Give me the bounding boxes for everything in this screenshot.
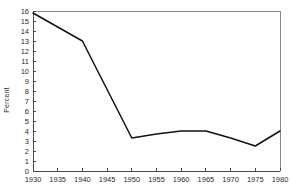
y-tick-label: 13 bbox=[21, 37, 29, 46]
x-tick-label: 1935 bbox=[49, 175, 66, 184]
x-tick-label: 1970 bbox=[222, 175, 239, 184]
chart-container: 012345678910111213141516 193019351940194… bbox=[0, 0, 291, 193]
data-series-line bbox=[33, 13, 280, 146]
y-tick-label: 16 bbox=[21, 7, 29, 16]
x-axis-ticks: 1930193519401945195019551960196519701975… bbox=[25, 168, 289, 184]
y-tick-label: 3 bbox=[25, 137, 29, 146]
y-axis-label: Percent bbox=[3, 87, 10, 113]
y-tick-label: 7 bbox=[25, 97, 29, 106]
y-tick-label: 6 bbox=[25, 107, 29, 116]
y-tick-label: 14 bbox=[21, 27, 29, 36]
y-tick-label: 9 bbox=[25, 77, 29, 86]
x-tick-label: 1965 bbox=[198, 175, 215, 184]
y-tick-label: 4 bbox=[25, 127, 29, 136]
y-tick-label: 1 bbox=[25, 157, 29, 166]
y-tick-label: 5 bbox=[25, 117, 29, 126]
x-tick-label: 1950 bbox=[123, 175, 140, 184]
x-tick-label: 1930 bbox=[25, 175, 42, 184]
y-axis-ticks: 012345678910111213141516 bbox=[21, 7, 36, 176]
x-tick-label: 1940 bbox=[74, 175, 91, 184]
y-tick-label: 11 bbox=[21, 57, 29, 66]
y-tick-label: 15 bbox=[21, 17, 29, 26]
y-tick-label: 10 bbox=[21, 67, 29, 76]
line-chart: 012345678910111213141516 193019351940194… bbox=[0, 0, 291, 193]
x-tick-label: 1975 bbox=[247, 175, 264, 184]
y-tick-label: 2 bbox=[25, 147, 29, 156]
x-tick-label: 1980 bbox=[272, 175, 289, 184]
y-tick-label: 8 bbox=[25, 87, 29, 96]
x-tick-label: 1960 bbox=[173, 175, 190, 184]
y-tick-label: 12 bbox=[21, 47, 29, 56]
x-tick-label: 1955 bbox=[148, 175, 165, 184]
x-tick-label: 1945 bbox=[99, 175, 116, 184]
plot-frame bbox=[33, 11, 280, 171]
